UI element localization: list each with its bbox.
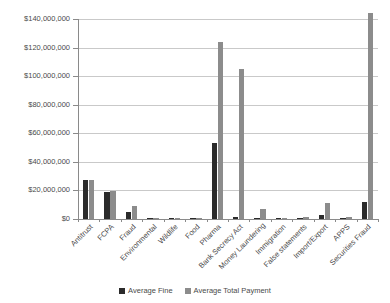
bar-average-fine (212, 143, 217, 219)
x-axis-tick-mark (335, 219, 336, 222)
y-axis-tick-label: $0 (0, 215, 70, 223)
gridline (78, 162, 378, 163)
x-axis-tick-mark (164, 219, 165, 222)
y-axis-tick-mark (73, 19, 78, 20)
x-axis-tick-mark (292, 219, 293, 222)
x-axis-tick-mark (357, 219, 358, 222)
y-axis-tick-mark (73, 105, 78, 106)
y-axis-tick-mark (73, 48, 78, 49)
legend-item-average-fine: Average Fine (119, 286, 172, 295)
gridline (78, 76, 378, 77)
x-axis-tick-mark (78, 219, 79, 222)
x-axis-tick-mark (378, 219, 379, 222)
legend-item-average-total-payment: Average Total Payment (185, 286, 271, 295)
bar-average-total-payment (110, 191, 115, 219)
bar-average-fine (83, 180, 88, 219)
gridline (78, 48, 378, 49)
bar-average-fine (104, 192, 109, 219)
bar-average-total-payment (260, 209, 265, 219)
bar-average-total-payment (325, 203, 330, 219)
x-axis-tick-mark (271, 219, 272, 222)
x-axis-tick-mark (249, 219, 250, 222)
plot-area (78, 19, 378, 219)
bar-average-total-payment (89, 180, 94, 219)
gridline (78, 19, 378, 20)
gridline (78, 133, 378, 134)
y-axis-tick-label: $40,000,000 (0, 158, 70, 166)
bar-average-total-payment (239, 69, 244, 219)
y-axis-tick-label: $140,000,000 (0, 15, 70, 23)
legend-swatch-icon (185, 288, 191, 294)
legend-label: Average Total Payment (194, 286, 271, 295)
x-axis-tick-mark (185, 219, 186, 222)
y-axis-tick-label: $100,000,000 (0, 72, 70, 80)
y-axis-tick-mark (73, 133, 78, 134)
bar-average-fine (126, 212, 131, 219)
bar-average-total-payment (218, 42, 223, 219)
y-axis-tick-label: $20,000,000 (0, 186, 70, 194)
y-axis-tick-label: $80,000,000 (0, 101, 70, 109)
legend-swatch-icon (119, 288, 125, 294)
bar-average-total-payment (132, 206, 137, 219)
bar-chart: $0$20,000,000$40,000,000$60,000,000$80,0… (0, 0, 390, 303)
gridline (78, 105, 378, 106)
y-axis-tick-label: $120,000,000 (0, 44, 70, 52)
y-axis-tick-mark (73, 162, 78, 163)
bar-average-fine (362, 202, 367, 219)
chart-legend: Average Fine Average Total Payment (0, 286, 390, 295)
y-axis-tick-label: $60,000,000 (0, 129, 70, 137)
y-axis-tick-mark (73, 190, 78, 191)
x-axis-tick-mark (207, 219, 208, 222)
y-axis-line (78, 19, 79, 219)
x-axis-tick-mark (142, 219, 143, 222)
legend-label: Average Fine (128, 286, 172, 295)
bar-average-total-payment (368, 13, 373, 219)
x-axis-tick-mark (121, 219, 122, 222)
x-axis-tick-mark (228, 219, 229, 222)
x-axis-tick-mark (314, 219, 315, 222)
x-axis-tick-mark (99, 219, 100, 222)
gridline (78, 190, 378, 191)
y-axis-tick-mark (73, 76, 78, 77)
